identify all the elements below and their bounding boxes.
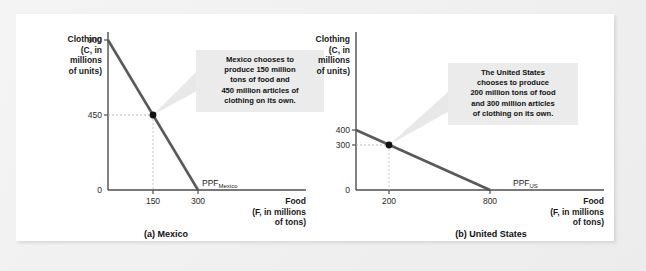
ppf-label-subscript-us: US — [530, 183, 538, 189]
y-axis-title-us: Clothing (C, in millions of units) — [292, 34, 350, 76]
xtick-label-150-mexico: 150 — [138, 196, 168, 206]
caption-mexico: (a) Mexico — [106, 229, 226, 239]
figure-panel: Clothing (C, in millions of units) 900 4… — [16, 14, 614, 241]
ytick-label-900-mexico: 900 — [72, 35, 102, 45]
callout-us: The United States chooses to produce 200… — [448, 63, 578, 125]
production-point-us — [386, 142, 393, 149]
ppf-label-mexico: PPFMexico — [202, 178, 238, 188]
figure-frame: Clothing (C, in millions of units) 900 4… — [0, 0, 646, 271]
ytick-label-300-us: 300 — [320, 140, 350, 150]
chart-us: Clothing (C, in millions of units) 400 3… — [308, 14, 614, 241]
leader-line-us — [389, 92, 453, 145]
ytick-label-400-us: 400 — [320, 125, 350, 135]
ppf-label-text-mexico: PPF — [202, 178, 219, 188]
x-axis-title-us: Food (F, in millions of tons) — [504, 196, 604, 228]
ppf-label-subscript-mexico: Mexico — [219, 183, 238, 189]
caption-us: (b) United States — [426, 229, 556, 239]
leader-line-mexico — [153, 72, 202, 115]
ppf-line-us — [356, 130, 490, 190]
chart-mexico: Clothing (C, in millions of units) 900 4… — [16, 14, 316, 241]
ppf-label-text-us: PPF — [513, 178, 530, 188]
ytick-label-0-mexico: 0 — [72, 185, 102, 195]
ytick-label-450-mexico: 450 — [72, 110, 102, 120]
xtick-label-800-us: 800 — [475, 196, 505, 206]
production-point-mexico — [150, 112, 157, 119]
xtick-label-200-us: 200 — [374, 196, 404, 206]
ppf-label-us: PPFUS — [513, 178, 538, 188]
x-axis-title-mexico: Food (F, in millions of tons) — [206, 196, 306, 228]
ytick-label-0-us: 0 — [320, 185, 350, 195]
